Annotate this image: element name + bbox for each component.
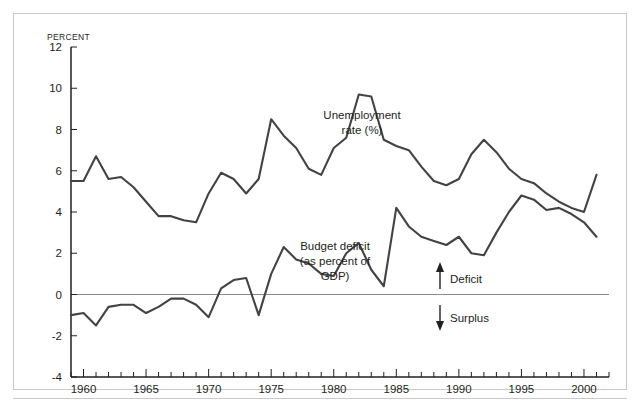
- x-tick-labels: 196019651970197519801985199019952000: [71, 383, 597, 395]
- y-tick-label: 4: [56, 206, 63, 218]
- x-tick-label: 1960: [71, 383, 97, 395]
- y-tick-label: 2: [56, 247, 62, 259]
- unemployment-series-label-line2: rate (%): [342, 124, 383, 136]
- x-tick-label: 1995: [509, 383, 535, 395]
- x-tick-label: 1975: [258, 383, 284, 395]
- y-tick-labels: -4-2024681012: [49, 41, 62, 383]
- deficit-series-label-line2: (as percent of: [300, 255, 371, 267]
- chart-series: [71, 94, 596, 325]
- deficit-series-label-line3: GDP): [321, 270, 350, 282]
- x-tick-label: 1980: [321, 383, 347, 395]
- surplus-arrow-label: Surplus: [450, 312, 489, 324]
- x-tick-label: 1990: [446, 383, 472, 395]
- y-tick-label: 8: [56, 124, 62, 136]
- surplus-arrow-annotation: Surplus: [436, 305, 489, 331]
- figure-container: -4-2024681012 19601965197019751980198519…: [0, 0, 640, 419]
- y-tick-label: -4: [52, 371, 63, 383]
- y-axis-unit-label: PERCENT: [47, 32, 90, 42]
- deficit-series-label-line1: Budget deficit: [300, 240, 370, 252]
- deficit-arrow-annotation: Deficit: [436, 262, 483, 289]
- unemployment-series-label-line1: Unemployment: [323, 109, 401, 121]
- y-tick-label: 6: [56, 165, 62, 177]
- x-tick-label: 1970: [196, 383, 222, 395]
- y-tick-label: 10: [49, 82, 62, 94]
- x-tick-label: 2000: [571, 383, 597, 395]
- y-tick-label: 12: [49, 41, 62, 53]
- y-tick-label: -2: [52, 330, 62, 342]
- chart-ticks: [71, 47, 609, 377]
- y-tick-label: 0: [56, 289, 62, 301]
- deficit-arrow-label: Deficit: [450, 273, 483, 285]
- line-chart: -4-2024681012 19601965197019751980198519…: [0, 0, 640, 419]
- x-tick-label: 1985: [384, 383, 410, 395]
- chart-axes: [71, 47, 609, 377]
- x-tick-label: 1965: [133, 383, 159, 395]
